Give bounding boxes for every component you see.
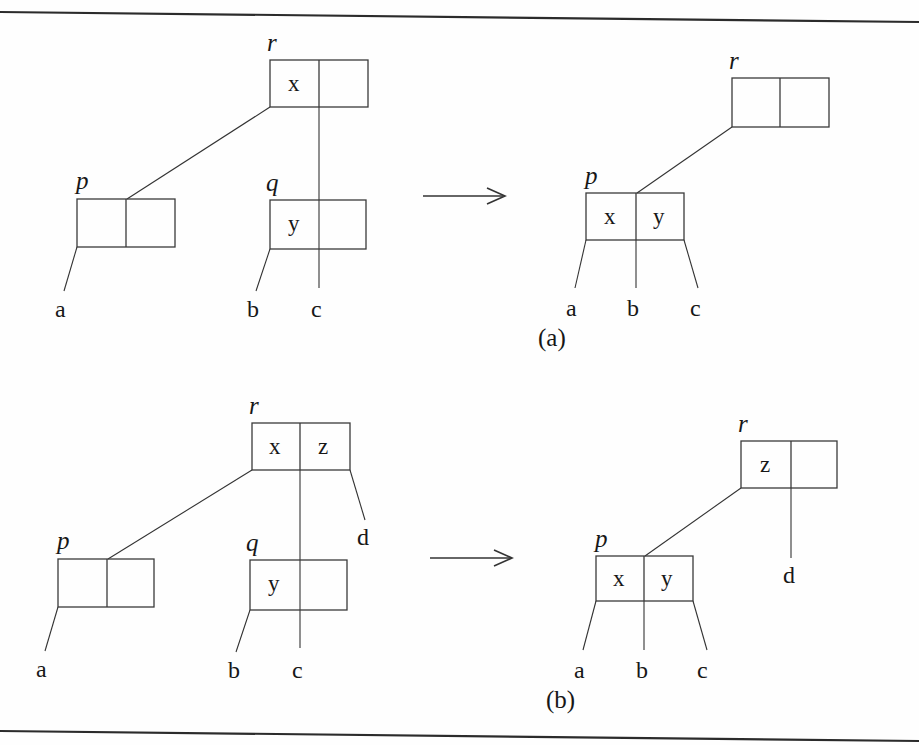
node-r-b-after — [741, 441, 837, 488]
node-r-b-before — [252, 423, 350, 470]
key-label-y-q-a-before: y — [288, 212, 300, 235]
edge-p-to-a-a-after — [575, 240, 586, 288]
edge-r-to-p-b-before — [108, 470, 252, 559]
pointer-label-r-b-before: r — [249, 393, 259, 418]
node-q-a-before — [270, 200, 366, 249]
edge-p-to-c-a-after — [684, 240, 698, 288]
child-label-b-a-before: b — [247, 297, 259, 321]
child-label-d-b-after: d — [783, 563, 795, 587]
pointer-label-r-a-after: r — [729, 48, 739, 73]
figure-canvas — [0, 0, 919, 745]
key-label-z-r-b-after: z — [760, 453, 770, 476]
pointer-label-p-a-before: p — [76, 168, 89, 193]
key-label-z-r-b-before: z — [318, 435, 328, 458]
key-label-x-p-b-after: x — [613, 567, 625, 590]
caption-a: (a) — [538, 325, 566, 350]
key-label-x-p-a-after: x — [604, 205, 616, 228]
edge-q-to-b-b-before — [236, 610, 250, 652]
node-p-b-before — [58, 559, 154, 607]
node-q-b-before — [250, 560, 347, 610]
key-label-y-p-b-after: y — [661, 567, 673, 590]
pointer-label-p-a-after: p — [585, 163, 598, 188]
figure-page: r x p q y a b c r p x y a b c (a) r x z … — [0, 0, 919, 745]
child-label-b-b-after: b — [636, 658, 648, 682]
child-label-c-b-after: c — [697, 658, 708, 682]
pointer-label-q-b-before: q — [246, 530, 259, 555]
child-label-a-b-before: a — [36, 657, 47, 681]
child-label-c-a-before: c — [311, 297, 322, 321]
pointer-label-q-a-before: q — [266, 170, 279, 195]
key-label-y-q-b-before: y — [268, 572, 280, 595]
edge-p-to-a-a-before — [64, 247, 77, 291]
child-label-c-b-before: c — [292, 658, 303, 682]
edge-r-to-p-b-after — [645, 488, 741, 556]
child-label-b-a-after: b — [627, 296, 639, 320]
edge-p-to-a-b-after — [583, 601, 596, 650]
child-label-c-a-after: c — [690, 296, 701, 320]
key-label-x-r-b-before: x — [269, 435, 281, 458]
node-p-a-after — [586, 193, 684, 240]
pointer-label-r-a-before: r — [267, 30, 277, 55]
edge-r-to-d-b-before — [350, 470, 365, 520]
top-rule — [0, 12, 919, 22]
pointer-label-p-b-after: p — [595, 526, 608, 551]
pointer-label-r-b-after: r — [738, 411, 748, 436]
child-label-d-b-before: d — [357, 525, 369, 549]
child-label-a-a-before: a — [55, 297, 66, 321]
child-label-a-a-after: a — [566, 296, 577, 320]
pointer-label-p-b-before: p — [57, 528, 70, 553]
child-label-b-b-before: b — [228, 658, 240, 682]
edge-p-to-c-b-after — [693, 601, 707, 650]
key-label-x-r-a-before: x — [288, 72, 300, 95]
edge-p-to-a-b-before — [45, 607, 58, 651]
bottom-rule — [0, 731, 919, 741]
key-label-y-p-a-after: y — [653, 205, 665, 228]
edge-q-to-b-a-before — [256, 249, 270, 291]
child-label-a-b-after: a — [574, 658, 585, 682]
caption-b: (b) — [546, 687, 575, 712]
edge-r-to-p-a-before — [127, 107, 270, 199]
edge-r-to-p-a-after — [637, 127, 732, 193]
